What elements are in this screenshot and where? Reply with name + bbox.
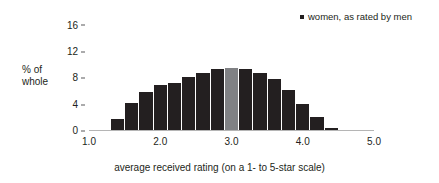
y-axis-tick: 12 [67,45,89,56]
x-axis-tick-label: 5.0 [367,136,381,147]
bar [310,117,323,130]
bar [111,119,124,130]
y-axis-tick-label: 4 [72,98,78,109]
x-axis-title: average received rating (on a 1- to 5-st… [0,162,439,173]
y-axis-tick: 0 [72,125,89,136]
bar [125,103,138,130]
x-axis-tick-label: 3.0 [225,136,239,147]
y-axis-tick-label: 8 [72,72,78,83]
y-axis-tick-dash-icon [81,51,85,52]
y-axis-tick-label: 12 [67,45,78,56]
bar [239,69,252,130]
y-axis-title-line-2: whole [22,76,68,88]
y-axis-title-line-1: % of [22,64,68,76]
x-axis-tick-label: 2.0 [153,136,167,147]
y-axis-tick-dash-icon [81,104,85,105]
y-axis-tick-dash-icon [81,130,85,131]
y-axis-tick-label: 0 [72,125,78,136]
bar [196,73,209,130]
bar [168,83,181,130]
chart-figure: women, as rated by men % of whole 048121… [0,0,439,183]
bar [325,128,338,130]
x-axis-tick-label: 4.0 [296,136,310,147]
bar [139,92,152,130]
x-axis-tick-label: 1.0 [82,136,96,147]
bar [211,69,224,130]
y-axis-tick: 16 [67,19,89,30]
y-axis-tick-dash-icon [81,25,85,26]
y-axis-tick-label: 16 [67,19,78,30]
bar [154,85,167,130]
bar-highlighted [225,68,238,130]
y-axis-tick: 8 [72,72,89,83]
bar [253,73,266,130]
bar [296,104,309,130]
plot-area: 0481216 1.02.03.04.05.0 [89,18,374,131]
bar [182,77,195,130]
bar [282,90,295,130]
y-axis-title: % of whole [22,64,68,87]
bar-series [89,18,374,131]
bar [268,79,281,130]
y-axis-tick-dash-icon [81,78,85,79]
y-axis-tick: 4 [72,98,89,109]
